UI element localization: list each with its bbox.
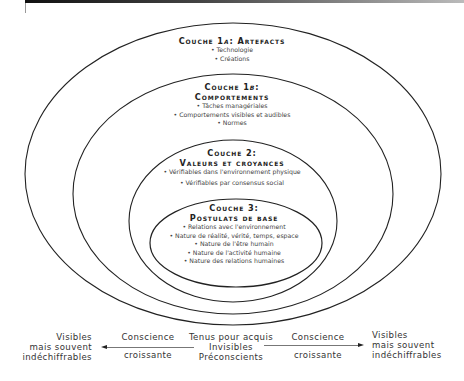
title-text: :	[255, 82, 259, 92]
arrow-left-icon	[101, 345, 107, 349]
footer-center-line: Préconscients	[186, 352, 276, 362]
layer-3-item: • Nature de réalité, vérité, temps, espa…	[2, 232, 464, 241]
footer-center-line: Invisibles	[186, 342, 276, 352]
layer-3-item: • Nature de l'être humain	[2, 240, 464, 249]
layer-1b-item: • Tâches managériales	[0, 102, 464, 111]
layer-1b: Couche 1b: Comportements • Tâches managé…	[0, 82, 464, 128]
title-text: Couche 1	[205, 82, 250, 92]
title-text: : Artefacts	[230, 36, 286, 46]
footer-center-line: Tenus pour acquis	[186, 332, 276, 342]
layer-3-item: • Relations avec l'environnement	[2, 223, 464, 232]
layer-1b-title: Couche 1b:	[0, 82, 464, 92]
right-arrow-label-bottom: croissante	[288, 350, 348, 360]
footer-left-line: mais souvent	[0, 342, 92, 352]
layer-1a: Couche 1a: Artefacts • Technologie • Cré…	[0, 36, 464, 63]
layer-1a-title: Couche 1a: Artefacts	[0, 36, 464, 46]
left-arrow-label-bottom: croissante	[118, 350, 178, 360]
footer-left-line: Visibles	[0, 332, 92, 342]
layer-1b-item: • Normes	[0, 119, 464, 128]
footer-left-label: Visibles mais souvent indéchiffrables	[0, 332, 92, 362]
layer-3-title: Couche 3:	[2, 203, 464, 213]
layer-2-title: Couche 2:	[0, 148, 464, 158]
footer-right-label: Visibles mais souvent indéchiffrables	[372, 330, 464, 360]
title-text: Couche 1	[179, 36, 224, 46]
layer-3: Couche 3: Postulats de base • Relations …	[2, 203, 464, 266]
arrow-right-icon	[358, 343, 364, 347]
layer-3-item: • Nature de l'activité humaine	[2, 249, 464, 258]
layer-1a-item: • Technologie	[0, 46, 464, 55]
layer-2: Couche 2: Valeurs et croyances • Vérifia…	[0, 148, 464, 187]
layer-1b-item: • Comportements visibles et audibles	[0, 111, 464, 120]
right-arrow-label-top: Conscience	[288, 332, 348, 342]
layer-3-item: • Nature des relations humaines	[2, 257, 464, 266]
footer-center-label: Tenus pour acquis Invisibles Préconscien…	[186, 332, 276, 362]
layer-2-item: • Vérifiables dans l'environnement physi…	[0, 168, 464, 177]
layer-3-subtitle: Postulats de base	[2, 213, 464, 223]
footer-right-line: Visibles	[372, 330, 464, 340]
layer-2-item: • Vérifiables par consensus social	[0, 179, 464, 188]
right-arrow-line	[264, 345, 358, 346]
layer-1a-item: • Créations	[0, 55, 464, 64]
footer-right-line: indéchiffrables	[372, 350, 464, 360]
footer-right-line: mais souvent	[372, 340, 464, 350]
layer-2-subtitle: Valeurs et croyances	[0, 158, 464, 168]
footer-left-line: indéchiffrables	[0, 352, 92, 362]
left-arrow-label-top: Conscience	[118, 332, 178, 342]
layer-1b-subtitle: Comportements	[0, 92, 464, 102]
left-arrow-line	[106, 347, 194, 348]
